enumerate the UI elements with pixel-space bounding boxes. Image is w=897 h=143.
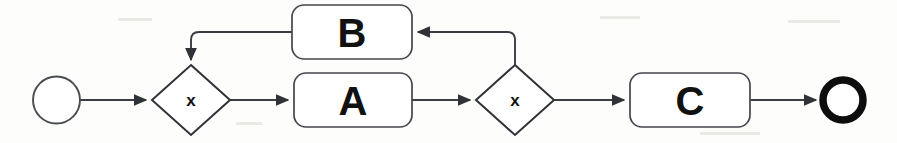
task-c-label: C (676, 79, 705, 123)
task-a[interactable]: A (294, 73, 412, 127)
task-b-label: B (338, 11, 367, 55)
end-event[interactable] (823, 80, 863, 120)
task-a-label: A (339, 79, 368, 123)
gateway-1[interactable]: x (152, 65, 230, 135)
start-event[interactable] (33, 77, 80, 124)
task-b[interactable]: B (292, 5, 412, 59)
start-event-circle[interactable] (33, 77, 80, 124)
flow-gateway2-to-taskB (418, 32, 515, 65)
task-c[interactable]: C (630, 73, 750, 127)
gateway-2[interactable]: x (476, 65, 554, 135)
diagram-svg: x B A x C (0, 0, 897, 143)
flow-taskB-to-gateway1 (191, 32, 292, 60)
end-event-circle[interactable] (823, 80, 863, 120)
bpmn-diagram-canvas: x B A x C (0, 0, 897, 143)
gateway-1-label: x (186, 91, 196, 110)
gateway-2-label: x (510, 91, 520, 110)
